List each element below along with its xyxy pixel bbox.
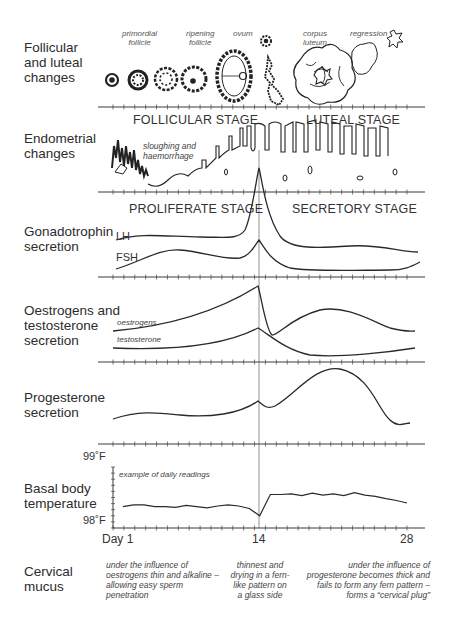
progesterone-chart <box>113 369 410 425</box>
caption-ripening: ripening follicle <box>186 29 214 47</box>
ruptured-follicle-icon <box>265 57 283 105</box>
mucus-note-late: under the influence of progesterone beco… <box>300 560 430 600</box>
temp-label-99: 99˚F <box>83 450 106 462</box>
gonadotrophin-chart <box>116 168 420 271</box>
temp-label-98: 98˚F <box>83 514 106 526</box>
fsh-curve <box>116 240 420 271</box>
corpus-albicans-icon <box>387 30 403 48</box>
mucus-note-early: under the influence of oestrogens thin a… <box>106 560 219 600</box>
row-label-bbt: Basal body temperature <box>24 481 97 511</box>
oestrogens-curve <box>113 286 415 335</box>
label-lh: LH <box>116 230 130 242</box>
growing-follicle-icon <box>155 68 177 90</box>
stage-follicular: FOLLICULAR STAGE <box>133 113 258 127</box>
caption-ovum: ovum <box>233 29 253 38</box>
primordial-follicle-2-icon <box>129 71 147 89</box>
day-label-28: 28 <box>400 532 413 546</box>
corpus-luteum-icon <box>294 44 355 104</box>
mucus-note-mid: thinnest and drying in a fern- like patt… <box>230 560 290 600</box>
caption-primordial: primordial follicle <box>122 29 157 47</box>
caption-corpus-luteum: corpus luteum <box>303 29 327 47</box>
row-label-endometrial: Endometrial changes <box>24 131 96 161</box>
row-label-gonadotrophin: Gonadotrophin secretion <box>24 224 113 254</box>
label-oestrogens: oestrogens <box>117 318 157 328</box>
stage-secretory: SECRETORY STAGE <box>292 202 417 216</box>
day-label-14: 14 <box>252 532 265 546</box>
oestrogens-chart <box>113 286 415 356</box>
label-fsh: FSH <box>116 251 138 263</box>
row-label-oestrogens: Oestrogens and testosterone secretion <box>24 303 120 348</box>
caption-regression: regression <box>350 29 387 38</box>
bbt-line <box>123 493 407 516</box>
row-label-progesterone: Progesterone secretion <box>24 390 105 420</box>
bbt-chart <box>123 493 407 516</box>
row-label-mucus: Cervical mucus <box>24 564 73 594</box>
stage-luteal: LUTEAL STAGE <box>306 113 400 127</box>
day-label-start: Day 1 <box>102 532 133 546</box>
stage-proliferate: PROLIFERATE STAGE <box>129 202 263 216</box>
label-daily-readings: example of daily readings <box>119 470 210 480</box>
progesterone-curve <box>113 369 410 425</box>
label-testosterone: testosterone <box>117 335 161 345</box>
row-label-follicular: Follicular and luteal changes <box>24 40 83 85</box>
regression-body-icon <box>352 43 378 75</box>
annotation-sloughing: sloughing and haemorrhage <box>143 141 196 161</box>
